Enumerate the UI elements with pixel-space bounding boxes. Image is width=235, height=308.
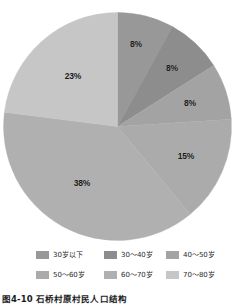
legend-item[interactable]: 60～70岁 bbox=[104, 268, 153, 282]
legend-row: 50～60岁60～70岁70～80岁 bbox=[0, 268, 235, 282]
legend-item[interactable]: 70～80岁 bbox=[166, 268, 215, 282]
legend-label: 30～40岁 bbox=[121, 251, 153, 260]
legend-swatch bbox=[166, 251, 179, 259]
pie-slice-label: 23% bbox=[65, 71, 81, 81]
pie-slice-group bbox=[4, 13, 232, 241]
legend-swatch bbox=[36, 251, 49, 259]
legend-label: 70～80岁 bbox=[183, 271, 215, 280]
pie-chart-svg bbox=[0, 0, 235, 250]
legend-item[interactable]: 40～50岁 bbox=[166, 248, 215, 262]
legend-label: 30岁以下 bbox=[53, 251, 83, 260]
pie-chart-figure: 8%8%8%15%38%23% 30岁以下30～40岁40～50岁50～60岁6… bbox=[0, 0, 235, 308]
legend-swatch bbox=[104, 251, 117, 259]
legend-swatch bbox=[166, 271, 179, 279]
legend-label: 50～60岁 bbox=[53, 271, 85, 280]
pie-slice-label: 8% bbox=[184, 98, 196, 108]
pie-chart-plot-area: 8%8%8%15%38%23% bbox=[0, 0, 235, 250]
pie-slice-label: 38% bbox=[74, 178, 90, 188]
legend-label: 60～70岁 bbox=[121, 271, 153, 280]
figure-caption: 图4-10 石桥村原村民人口结构 bbox=[2, 292, 127, 304]
legend-swatch bbox=[104, 271, 117, 279]
pie-slice[interactable] bbox=[4, 13, 117, 127]
legend-row: 30岁以下30～40岁40～50岁 bbox=[0, 248, 235, 262]
pie-slice-label: 8% bbox=[130, 39, 142, 49]
legend-item[interactable]: 50～60岁 bbox=[36, 268, 85, 282]
pie-slice-label: 15% bbox=[178, 151, 194, 161]
pie-slice-label: 8% bbox=[166, 63, 178, 73]
legend-swatch bbox=[36, 271, 49, 279]
chart-legend: 30岁以下30～40岁40～50岁50～60岁60～70岁70～80岁 bbox=[0, 248, 235, 288]
legend-label: 40～50岁 bbox=[183, 251, 215, 260]
legend-item[interactable]: 30岁以下 bbox=[36, 248, 83, 262]
legend-item[interactable]: 30～40岁 bbox=[104, 248, 153, 262]
